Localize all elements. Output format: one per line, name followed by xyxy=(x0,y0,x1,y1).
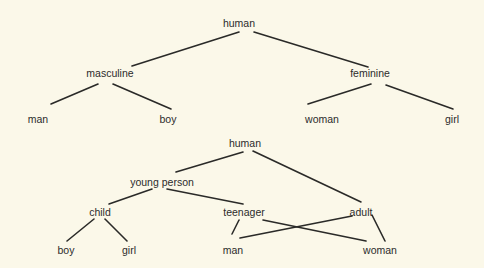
edge-t1-masculine-to-t1-man xyxy=(51,84,98,104)
edge-t1-human-to-t1-feminine xyxy=(254,32,368,67)
node-t1-masculine: masculine xyxy=(86,68,133,79)
edge-t1-feminine-to-t1-woman xyxy=(308,84,371,104)
node-t2-boy: boy xyxy=(58,245,75,256)
edge-t1-masculine-to-t1-boy xyxy=(113,84,171,109)
edge-t2-teenager-to-t2-man xyxy=(232,220,239,234)
node-t1-man: man xyxy=(28,114,48,125)
node-t2-girl: girl xyxy=(122,245,136,256)
edge-t2-child-to-t2-boy xyxy=(67,219,94,241)
edge-t2-young-person-to-t2-child xyxy=(109,189,152,204)
node-t1-woman: woman xyxy=(305,114,339,125)
edge-t2-young-person-to-t2-teenager xyxy=(167,189,243,204)
edge-t2-adult-to-t2-woman xyxy=(372,215,385,241)
edge-t2-human-to-t2-young-person xyxy=(176,152,243,172)
node-t1-human: human xyxy=(223,18,255,29)
edge-t1-feminine-to-t1-girl xyxy=(386,85,453,109)
node-t2-young-person: young person xyxy=(130,177,194,188)
edge-t1-human-to-t1-masculine xyxy=(132,32,239,66)
node-t1-feminine: feminine xyxy=(350,68,390,79)
node-t1-girl: girl xyxy=(445,114,459,125)
node-t2-adult: adult xyxy=(350,207,373,218)
node-t2-woman: woman xyxy=(363,245,397,256)
node-t2-man: man xyxy=(223,245,243,256)
node-t2-child: child xyxy=(89,207,111,218)
node-t2-human: human xyxy=(229,138,261,149)
edge-t2-child-to-t2-girl xyxy=(105,219,127,241)
node-t1-boy: boy xyxy=(160,114,177,125)
node-t2-teenager: teenager xyxy=(223,207,264,218)
edge-t2-human-to-t2-adult xyxy=(253,151,361,202)
tree-edges xyxy=(0,0,484,268)
